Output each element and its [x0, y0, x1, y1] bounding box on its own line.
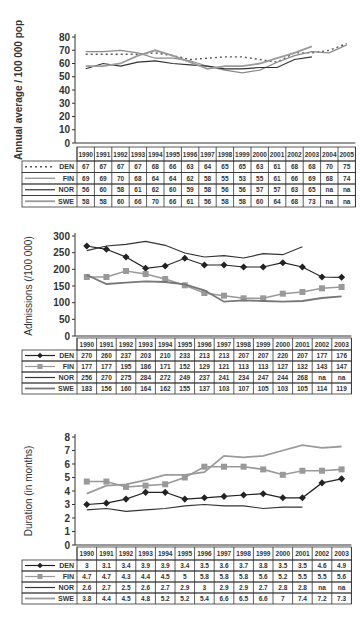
y-tick-label: 250: [53, 247, 70, 258]
table-cell: 164: [140, 385, 151, 392]
table-cell: 113: [258, 363, 269, 370]
diamond-marker: [299, 263, 306, 270]
table-header-year: 1992: [119, 550, 134, 557]
table-cell: 270: [101, 374, 112, 381]
table-cell: 5.2: [278, 573, 287, 580]
table-cell: na: [326, 198, 334, 205]
y-tick-label: 100: [53, 297, 70, 308]
table-cell: 143: [317, 363, 328, 370]
table-cell: 176: [336, 352, 347, 359]
table-cell: 67: [117, 163, 125, 170]
table-cell: 6.6: [219, 595, 228, 602]
table-cell: 66: [291, 175, 299, 182]
table-cell: 6.5: [239, 595, 248, 602]
table-header-year: 2002: [315, 550, 330, 557]
table-cell: 57: [273, 186, 281, 193]
table-cell: 3.8: [82, 595, 91, 602]
table-header-year: 1990: [80, 550, 95, 557]
y-tick-label: 0: [64, 138, 70, 149]
table-header-year: 1997: [217, 341, 232, 348]
diamond-marker: [279, 494, 286, 501]
table-header-year: 1993: [138, 550, 153, 557]
table-cell: 59: [186, 186, 194, 193]
table-header-year: 1996: [197, 550, 212, 557]
table-cell: 113: [238, 363, 249, 370]
square-marker: [162, 481, 168, 487]
table-header-year: 1990: [78, 151, 93, 158]
square-marker: [280, 291, 286, 297]
table-cell: na: [338, 584, 346, 591]
table-cell: na: [326, 186, 334, 193]
square-marker: [201, 464, 207, 470]
table-cell: 127: [277, 363, 288, 370]
table-cell: 66: [169, 163, 177, 170]
table-cell: 61: [186, 198, 194, 205]
table-cell: 3.9: [141, 562, 150, 569]
table-cell: 3.8: [259, 562, 268, 569]
square-marker: [241, 464, 247, 470]
table-cell: 57: [256, 186, 264, 193]
table-header-year: 1992: [113, 151, 128, 158]
table-cell: 107: [238, 385, 249, 392]
table-cell: 65: [308, 186, 316, 193]
table-cell: 69: [99, 175, 107, 182]
table-cell: 256: [81, 374, 92, 381]
table-cell: 62: [152, 186, 160, 193]
table-cell: 5.5: [298, 573, 307, 580]
table-header-year: 1995: [178, 341, 193, 348]
table-cell: 162: [160, 385, 171, 392]
y-tick-label: 200: [53, 264, 70, 275]
series-line-nor: [87, 241, 303, 258]
square-marker: [319, 285, 325, 291]
table-cell: 244: [277, 374, 288, 381]
table-cell: 5.2: [180, 595, 189, 602]
table-cell: 53: [239, 175, 247, 182]
data-table: 1990199119921993199419951996199719981999…: [22, 147, 355, 207]
table-cell: 70: [326, 163, 334, 170]
table-header-year: 2001: [295, 550, 310, 557]
table-cell: 6.6: [259, 595, 268, 602]
table-cell: 63: [256, 163, 264, 170]
table-cell: 68: [134, 175, 142, 182]
table-cell: 60: [99, 186, 107, 193]
chart-panel-duration: 012345678Duration (in months)19901991199…: [0, 405, 364, 625]
table-header-year: 1991: [99, 341, 114, 348]
square-marker: [143, 483, 149, 489]
table-cell: 195: [121, 363, 132, 370]
table-cell: 68: [326, 175, 334, 182]
square-marker: [299, 289, 305, 295]
table-cell: 152: [179, 363, 190, 370]
legend-label: NOR: [58, 374, 74, 381]
table-header-year: 1993: [131, 151, 146, 158]
table-cell: 55: [221, 175, 229, 182]
series-line-swe: [86, 46, 312, 69]
legend-label: SWE: [58, 595, 74, 602]
table-header-year: 1995: [178, 550, 193, 557]
diamond-marker: [162, 262, 169, 269]
line-chart-admissions: 050100150200250300Admissions (/100 000)1…: [0, 215, 364, 405]
y-tick-label: 80: [59, 32, 71, 43]
table-header-year: 1998: [236, 550, 251, 557]
table-cell: 58: [239, 198, 247, 205]
table-header-year: 2003: [334, 550, 349, 557]
table-cell: 62: [186, 175, 194, 182]
table-header-year: 2000: [276, 341, 291, 348]
table-cell: 3.5: [298, 562, 307, 569]
diamond-marker: [142, 489, 149, 496]
table-cell: 213: [219, 352, 230, 359]
table-header-year: 2003: [305, 151, 320, 158]
y-tick-label: 0: [64, 540, 70, 551]
table-cell: 67: [82, 163, 90, 170]
table-cell: 5.6: [259, 573, 268, 580]
table-cell: 119: [336, 385, 347, 392]
table-cell: 160: [121, 385, 132, 392]
diamond-marker: [338, 475, 345, 482]
data-table: 1990199119921993199419951996199719981999…: [22, 338, 351, 394]
table-cell: 270: [81, 352, 92, 359]
table-cell: 275: [121, 374, 132, 381]
legend-label: SWE: [58, 385, 74, 392]
square-marker: [143, 271, 149, 277]
table-header-year: 2003: [334, 341, 349, 348]
table-cell: 68: [291, 163, 299, 170]
table-header-year: 2001: [270, 151, 285, 158]
